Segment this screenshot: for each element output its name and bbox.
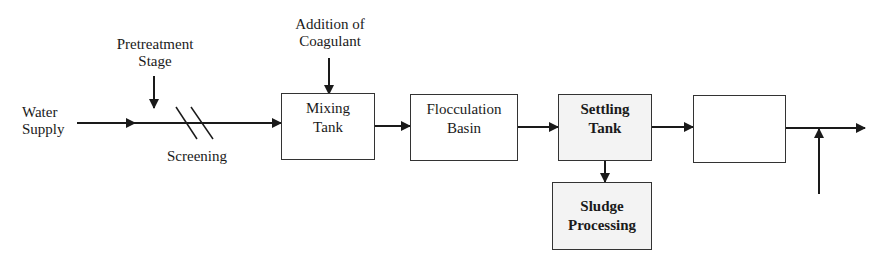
coagulant-line-1: Addition of (276, 16, 384, 33)
flocculation-line-2: Basin (447, 119, 481, 138)
screening-label: Screening (157, 148, 237, 165)
flocculation-line-1: Flocculation (427, 100, 502, 119)
mixing-tank-line-2: Tank (313, 118, 343, 137)
water-supply-line-1: Water (22, 104, 65, 121)
sludge-line-1: Sludge (580, 197, 623, 216)
unlabeled-box (693, 95, 786, 163)
pretreatment-label: Pretreatment Stage (107, 36, 203, 70)
flocculation-basin-box: Flocculation Basin (410, 94, 518, 161)
pretreatment-line-2: Stage (107, 53, 203, 70)
sludge-line-2: Processing (568, 216, 636, 235)
coagulant-line-2: Coagulant (276, 33, 384, 50)
mixing-tank-line-1: Mixing (306, 99, 350, 118)
pretreatment-line-1: Pretreatment (107, 36, 203, 53)
coagulant-label: Addition of Coagulant (276, 16, 384, 50)
water-supply-label: Water Supply (22, 104, 65, 138)
settling-tank-box: Settling Tank (558, 94, 652, 161)
water-supply-line-2: Supply (22, 121, 65, 138)
settling-tank-line-1: Settling (580, 100, 629, 119)
settling-tank-line-2: Tank (589, 119, 622, 138)
mixing-tank-box: Mixing Tank (281, 93, 375, 160)
sludge-processing-box: Sludge Processing (552, 182, 652, 250)
